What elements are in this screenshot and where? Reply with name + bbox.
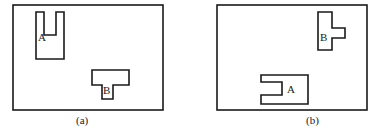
panel-a: A B (a) [13,5,163,127]
panel-a-caption: (a) [76,114,89,127]
figure: A B (a) B A (b) [0,0,379,135]
panel-b: B A (b) [217,5,367,127]
panel-b-label-b: B [320,31,327,43]
panel-a-label-a: A [38,31,46,43]
panel-b-shape-a [261,75,308,104]
panel-a-label-b: B [103,84,110,96]
panel-b-label-a: A [287,83,295,95]
panel-b-caption: (b) [306,114,319,127]
panel-a-shape-b [92,70,129,99]
